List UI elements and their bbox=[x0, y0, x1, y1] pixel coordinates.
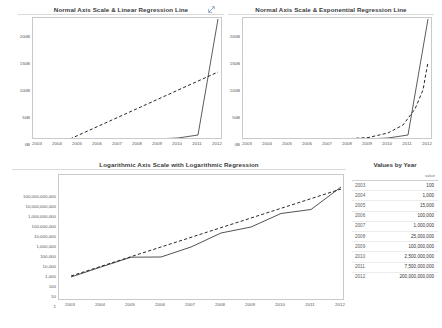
y-tick-label: 1,000,000 bbox=[12, 244, 56, 249]
x-tick-label: 2010 bbox=[382, 141, 392, 146]
cell-value: 1,000 bbox=[375, 191, 438, 201]
chart-title-logarithmic: Logarithmic Axis Scale with Logarithmic … bbox=[12, 160, 346, 170]
y-tick-label: 100B bbox=[18, 88, 30, 93]
cell-value: 7,500,000,000 bbox=[375, 262, 438, 272]
plot-area-linear bbox=[32, 17, 222, 139]
cell-value: 25,000,000 bbox=[375, 231, 438, 241]
logarithmic-chart-svg bbox=[59, 175, 344, 300]
cell-year: 2008 bbox=[352, 231, 375, 241]
table-header-row: value bbox=[352, 172, 438, 181]
y-tick-label: 50B bbox=[18, 115, 30, 120]
table-row[interactable]: 2010 2,500,000,000 bbox=[352, 252, 438, 262]
y-tick-label: 100B bbox=[228, 88, 240, 93]
cell-year: 2011 bbox=[352, 262, 375, 272]
trendline-logarithmic bbox=[71, 189, 341, 276]
y-tick-label: 10,000,000,000 bbox=[12, 204, 56, 209]
x-tick-label: 2012 bbox=[212, 141, 222, 146]
dashboard-page: Normal Axis Scale & Linear Regression Li… bbox=[0, 0, 442, 328]
cell-year: 2012 bbox=[352, 272, 375, 282]
exponential-chart-svg bbox=[243, 18, 432, 139]
y-tick-label: 1,000,000,000 bbox=[12, 214, 56, 219]
cell-year: 2005 bbox=[352, 201, 375, 211]
y-tick-label: 0B bbox=[228, 142, 240, 147]
table-row[interactable]: 2012 200,000,000,000 bbox=[352, 272, 438, 282]
y-tick-label: 0B bbox=[18, 142, 30, 147]
chart-title-linear: Normal Axis Scale & Linear Regression Li… bbox=[18, 5, 224, 15]
cell-value: 100 bbox=[375, 181, 438, 191]
y-tick-label: 200B bbox=[18, 34, 30, 39]
y-tick-label: 1 bbox=[12, 304, 56, 309]
plot-area-logarithmic bbox=[58, 174, 344, 300]
x-tick-label: 2007 bbox=[322, 141, 332, 146]
cell-year: 2009 bbox=[352, 242, 375, 252]
trendline-linear bbox=[70, 72, 218, 139]
y-tick-label: 100,000,000 bbox=[12, 224, 56, 229]
x-tick-label: 2011 bbox=[192, 141, 201, 146]
x-tick-label: 2003 bbox=[32, 141, 42, 146]
x-tick-label: 2005 bbox=[72, 141, 82, 146]
table-row[interactable]: 2009 100,000,000 bbox=[352, 242, 438, 252]
values-table-title: Values by Year bbox=[352, 160, 438, 169]
cell-year: 2006 bbox=[352, 211, 375, 221]
x-tick-label: 2005 bbox=[125, 302, 135, 307]
x-tick-label: 2007 bbox=[112, 141, 122, 146]
x-tick-label: 2012 bbox=[335, 302, 345, 307]
y-tick-label: 100,000 bbox=[12, 254, 56, 259]
table-row[interactable]: 2003 100 bbox=[352, 181, 438, 191]
x-tick-label: 2006 bbox=[92, 141, 102, 146]
x-tick-label: 2006 bbox=[155, 302, 165, 307]
values-table-panel: Values by Year value 2003 100 2004 1,000… bbox=[352, 160, 438, 326]
x-tick-label: 2009 bbox=[245, 302, 255, 307]
table-header-value: value bbox=[375, 172, 438, 181]
x-tick-label: 2007 bbox=[185, 302, 195, 307]
cell-value: 100,000 bbox=[375, 211, 438, 221]
values-table: value 2003 100 2004 1,000 2005 15,000 20… bbox=[352, 172, 438, 282]
x-tick-label: 2010 bbox=[275, 302, 285, 307]
x-tick-label: 2005 bbox=[282, 141, 292, 146]
y-tick-label: 1,000 bbox=[12, 274, 56, 279]
x-tick-label: 2010 bbox=[172, 141, 182, 146]
cell-year: 2004 bbox=[352, 191, 375, 201]
linear-chart-svg bbox=[33, 18, 222, 139]
chart-panel-linear: Normal Axis Scale & Linear Regression Li… bbox=[18, 5, 224, 157]
x-tick-label: 2008 bbox=[215, 302, 225, 307]
plot-area-exponential bbox=[242, 17, 432, 139]
series-value-line bbox=[248, 19, 428, 139]
cell-value: 2,500,000,000 bbox=[375, 252, 438, 262]
y-tick-label: 10,000,000 bbox=[12, 234, 56, 239]
table-row[interactable]: 2004 1,000 bbox=[352, 191, 438, 201]
table-row[interactable]: 2011 7,500,000,000 bbox=[352, 262, 438, 272]
table-row[interactable]: 2006 100,000 bbox=[352, 211, 438, 221]
x-tick-label: 2004 bbox=[52, 141, 62, 146]
x-tick-label: 2008 bbox=[132, 141, 142, 146]
series-value-line bbox=[38, 19, 218, 139]
x-tick-label: 2004 bbox=[262, 141, 272, 146]
table-row[interactable]: 2007 1,000,000 bbox=[352, 221, 438, 231]
cell-year: 2010 bbox=[352, 252, 375, 262]
y-tick-label: 150B bbox=[228, 61, 240, 66]
cell-year: 2007 bbox=[352, 221, 375, 231]
cell-value: 1,000,000 bbox=[375, 221, 438, 231]
cell-value: 15,000 bbox=[375, 201, 438, 211]
x-tick-label: 2004 bbox=[95, 302, 105, 307]
x-tick-label: 2003 bbox=[65, 302, 75, 307]
chart-panel-logarithmic: Logarithmic Axis Scale with Logarithmic … bbox=[12, 160, 346, 326]
chart-title-exponential: Normal Axis Scale & Exponential Regressi… bbox=[228, 5, 434, 15]
x-tick-label: 2011 bbox=[402, 141, 411, 146]
x-tick-label: 2011 bbox=[305, 302, 314, 307]
y-tick-label: 100,000,000,000 bbox=[12, 194, 56, 199]
cell-value: 100,000,000 bbox=[375, 242, 438, 252]
cell-year: 2003 bbox=[352, 181, 375, 191]
expand-icon[interactable] bbox=[208, 6, 215, 13]
y-tick-label: 200B bbox=[228, 34, 240, 39]
cell-value: 200,000,000,000 bbox=[375, 272, 438, 282]
series-value-line bbox=[71, 187, 341, 277]
trendline-exponential bbox=[248, 62, 428, 139]
x-tick-label: 2012 bbox=[422, 141, 432, 146]
y-tick-label: 100 bbox=[12, 284, 56, 289]
y-tick-label: 10,000 bbox=[12, 264, 56, 269]
table-row[interactable]: 2008 25,000,000 bbox=[352, 231, 438, 241]
table-row[interactable]: 2005 15,000 bbox=[352, 201, 438, 211]
x-tick-label: 2009 bbox=[362, 141, 372, 146]
chart-panel-exponential: Normal Axis Scale & Exponential Regressi… bbox=[228, 5, 434, 157]
